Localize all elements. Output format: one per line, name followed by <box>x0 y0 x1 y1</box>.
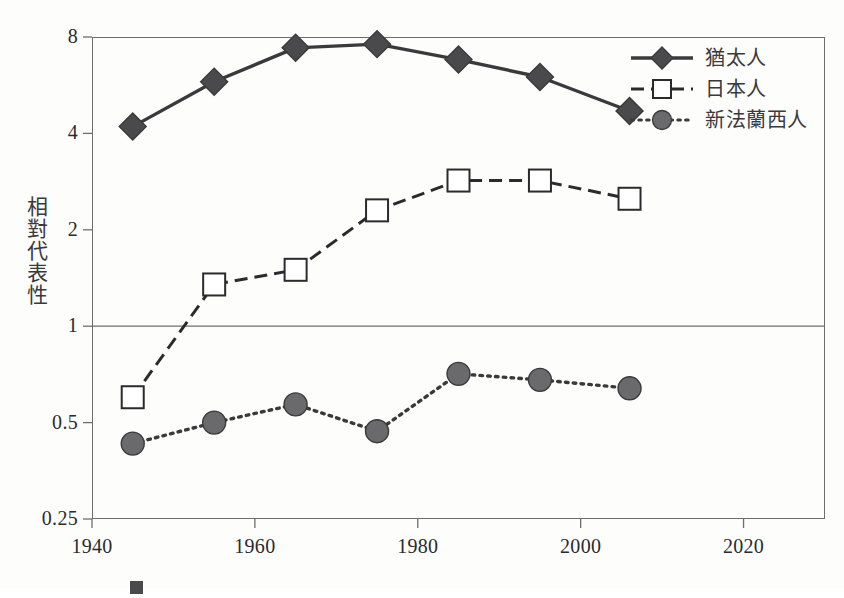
x-tick-label: 1940 <box>47 536 137 556</box>
y-tick-label: 2 <box>68 219 78 239</box>
legend-label: 日本人 <box>705 77 767 101</box>
x-tick-label: 1960 <box>210 536 300 556</box>
caption-badge-icon <box>130 581 143 594</box>
x-tick-label: 2020 <box>699 536 789 556</box>
chart-legend: 猶太人日本人新法蘭西人 <box>629 44 825 137</box>
y-tick-label: 8 <box>68 26 78 46</box>
series-1 <box>119 31 643 140</box>
y-tick-marks <box>83 37 92 519</box>
legend-label: 新法蘭西人 <box>705 108 808 132</box>
circle-marker-icon <box>629 108 695 132</box>
series-layer <box>119 31 643 455</box>
x-tick-label: 2000 <box>536 536 626 556</box>
y-tick-label: 0.25 <box>42 508 78 528</box>
y-tick-label: 0.5 <box>52 412 78 432</box>
series-3 <box>121 362 641 455</box>
x-tick-label: 1980 <box>373 536 463 556</box>
legend-item-1[interactable]: 猶太人 <box>629 44 825 72</box>
diamond-marker-icon <box>629 46 695 70</box>
series-2 <box>122 170 641 409</box>
legend-item-3[interactable]: 新法蘭西人 <box>629 106 825 134</box>
legend-item-2[interactable]: 日本人 <box>629 75 825 103</box>
x-tick-marks <box>92 519 744 528</box>
figure-caption <box>130 578 730 598</box>
square-marker-icon <box>629 77 695 101</box>
legend-label: 猶太人 <box>705 46 767 70</box>
y-tick-label: 1 <box>68 315 78 335</box>
y-tick-label: 4 <box>68 122 78 142</box>
